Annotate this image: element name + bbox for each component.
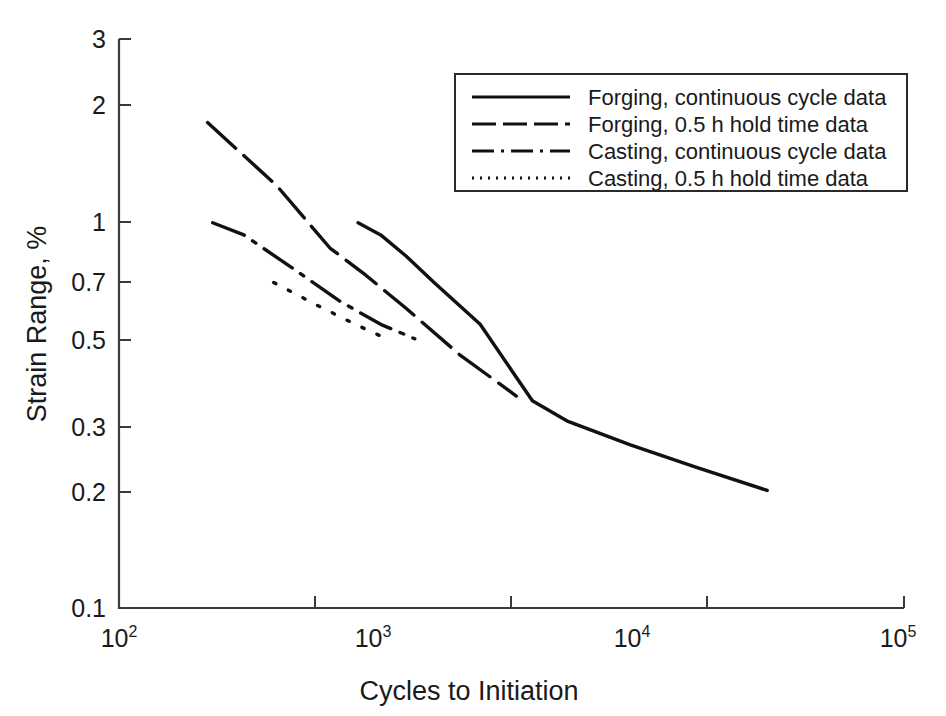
legend-label-1: Forging, 0.5 h hold time data: [588, 112, 869, 137]
strain-range-vs-cycles-chart: 3 2 1 0.7 0.5 0.3 0.2 0.1 102 103: [0, 0, 946, 716]
x-tick-label-1e4: 104: [614, 623, 651, 652]
legend-label-3: Casting, 0.5 h hold time data: [588, 166, 869, 191]
legend-label-0: Forging, continuous cycle data: [588, 85, 887, 110]
y-tick-label-2: 2: [92, 91, 106, 119]
y-tick-label-0.5: 0.5: [71, 326, 106, 354]
series-path-0: [358, 223, 767, 491]
y-tick-label-0.7: 0.7: [71, 268, 106, 296]
y-axis-tick-labels: 3 2 1 0.7 0.5 0.3 0.2 0.1: [71, 25, 106, 622]
x-axis-ticks: [119, 596, 904, 608]
x-axis-tick-labels: 102 103 104 105: [101, 623, 917, 652]
x-tick-label-1e5: 105: [880, 623, 917, 652]
x-tick-label-1e3: 103: [355, 623, 392, 652]
y-tick-label-1: 1: [92, 208, 106, 236]
x-tick-label-1e2: 102: [101, 623, 138, 652]
x-axis-title: Cycles to Initiation: [359, 676, 578, 706]
legend: Forging, continuous cycle data Forging, …: [455, 74, 907, 191]
y-tick-label-3: 3: [92, 25, 106, 53]
series-path-3: [274, 282, 383, 337]
y-axis-ticks: [119, 39, 131, 608]
figure-container: 3 2 1 0.7 0.5 0.3 0.2 0.1 102 103: [0, 0, 946, 716]
y-tick-label-0.3: 0.3: [71, 413, 106, 441]
legend-label-2: Casting, continuous cycle data: [588, 139, 887, 164]
y-axis-title: Strain Range, %: [22, 226, 52, 423]
y-tick-label-0.1: 0.1: [71, 594, 106, 622]
y-tick-label-0.2: 0.2: [71, 478, 106, 506]
